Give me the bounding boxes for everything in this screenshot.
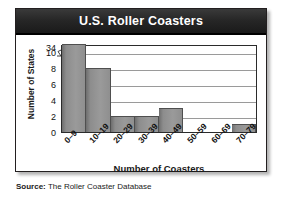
source-label: Source: xyxy=(16,182,46,191)
chart-title-bar: U.S. Roller Coasters xyxy=(16,9,266,35)
chart-body: Number of States 341086420 0–910–1920–29… xyxy=(16,37,266,171)
chart-figure: U.S. Roller Coasters Number of States 34… xyxy=(15,8,267,172)
y-axis-tick: 4 xyxy=(51,97,56,106)
bar-slot xyxy=(135,46,159,132)
bar-slot xyxy=(208,46,232,132)
x-axis-title: Number of Coasters xyxy=(61,163,257,174)
plot-area xyxy=(61,45,257,133)
y-axis-tick: 2 xyxy=(51,113,56,122)
bar-slot xyxy=(86,46,110,132)
bar-slot xyxy=(111,46,135,132)
y-axis-tick: 10 xyxy=(46,49,56,58)
bar-series xyxy=(62,46,256,132)
bar-slot xyxy=(183,46,207,132)
source-value: The Roller Coaster Database xyxy=(46,182,152,191)
bar-slot xyxy=(62,46,86,132)
y-axis-tick-labels: 341086420 xyxy=(36,45,56,133)
source-note: Source: The Roller Coaster Database xyxy=(16,182,151,191)
chart-title: U.S. Roller Coasters xyxy=(79,14,203,28)
bar[interactable] xyxy=(86,68,110,132)
bar-slot xyxy=(159,46,183,132)
bar[interactable] xyxy=(62,44,86,132)
y-axis-tick: 8 xyxy=(51,65,56,74)
bar-slot xyxy=(232,46,256,132)
y-axis-tick: 0 xyxy=(51,129,56,138)
y-axis-title: Number of States xyxy=(26,39,36,129)
y-axis-tick: 6 xyxy=(51,81,56,90)
